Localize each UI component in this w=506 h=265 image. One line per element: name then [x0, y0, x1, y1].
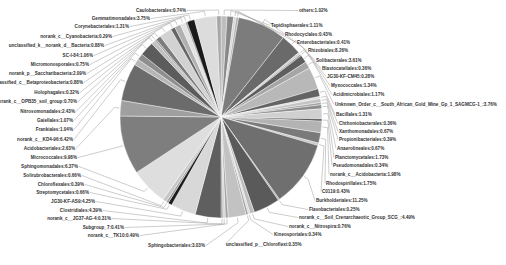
slice-label: Nitrosomonadales:2.43% [20, 109, 75, 114]
leader-line [140, 219, 227, 236]
slice-label: Corynebacteriales:1.31% [75, 24, 129, 29]
slice-label: Micrococcales:9.98% [31, 155, 77, 160]
leader-line [279, 201, 308, 210]
leader-line [76, 108, 119, 149]
slice-label: Frankiales:1.04% [36, 127, 73, 132]
slice-label: unclassified_k__norank_d__Bacteria:0.88% [9, 43, 104, 48]
slice-label: Gaiellales:1.07% [37, 118, 73, 123]
slice-label: Micromonosporales:0.75% [31, 62, 89, 67]
slice-label: Myxococcales:1.34% [331, 83, 377, 88]
leader-line [323, 120, 332, 165]
slice-label: Rhizobiales:8.26% [308, 48, 348, 53]
leader-line [319, 145, 324, 192]
slice-label: norank_c__Cyanobacteria:0.29% [40, 34, 112, 39]
slice-label: C0119:0.43% [322, 189, 350, 194]
leader-line [112, 219, 222, 225]
slice-label: Enterobacteriales:0.41% [297, 40, 350, 45]
slice-label: unclassified_c__Betaproteobacteria:0.88% [0, 80, 83, 85]
slice-label: Kineosporiales:0.34% [274, 232, 322, 237]
leader-line [249, 215, 273, 235]
slice-label: Chloroflexales:0.39% [38, 182, 84, 187]
slice-label: Flavobacteriales:0.25% [309, 207, 360, 212]
leader-line [304, 176, 315, 200]
slice-label: Chthoniobacterales:0.36% [339, 121, 396, 126]
slice-label: norank_c__KD4-96:6.42% [17, 137, 73, 142]
slice-label: Tepidisphaerales:1.11% [271, 23, 323, 28]
slice-label: norank_c__TK10:0.49% [88, 233, 139, 238]
slice-label: Subgroup_7:0.41% [83, 225, 124, 230]
slice-label: Solibacterales:3.61% [316, 58, 362, 63]
leader-line [225, 216, 249, 245]
slice-label: JG30-KF-AS9:4.25% [51, 199, 95, 204]
slice-label: norank_c__OPB35_soil_group:0.70% [0, 99, 77, 104]
slice-label: Acidimicrobiales:1.17% [333, 92, 384, 97]
slice-label: Unknown_Order_c__South_African_Gold_Mine… [335, 102, 497, 107]
slice-label: Bacillales:1.31% [336, 112, 372, 117]
slice-label: norank_c__Soil_Crenarchaeotic_Group_SCG_… [299, 215, 415, 220]
slice-label: Propionibacteriales:0.39% [339, 137, 396, 142]
leader-line [322, 103, 338, 140]
slice-label: JG30-KF-CM45:0.28% [327, 74, 374, 79]
slice-label: Pseudomonadales:0.34% [333, 163, 388, 168]
slice-label: SC-I-84:1.06% [63, 53, 93, 58]
slice-label: Holophagales:0.32% [34, 90, 79, 95]
slice-label: Xanthomonadales:0.67% [339, 129, 393, 134]
slice-label: Rhodospirillales:1.75% [326, 181, 376, 186]
leader-line [74, 80, 125, 140]
slice-label: norank_c__JG37-AG-4:0.31% [47, 216, 111, 221]
slice-label: Burkholderiales:11.25% [316, 198, 368, 203]
slice-label: Anaerolineales:0.67% [337, 146, 384, 151]
leader-line [321, 96, 338, 123]
slice-label: others:1.02% [299, 8, 328, 13]
slice-label: norank_p__Saccharibacteria:2.09% [9, 71, 86, 76]
slice-label: Blastocatellales:0.36% [322, 66, 371, 71]
slice-label: Acidobacteriales:2.63% [24, 146, 75, 151]
slice-label: Rhodocyclales:0.43% [285, 32, 332, 37]
slice-label: unclassified_p__Chloroflexi:0.35% [226, 242, 302, 247]
slice-label: Solirubrobacterales:0.66% [23, 173, 81, 178]
slice-label: Streptomycetales:0.66% [36, 190, 89, 195]
slice-label: Gemmatimonadales:3.75% [92, 16, 150, 21]
slice-label: Clostridiales:4.39% [60, 208, 102, 213]
leader-line [187, 10, 219, 15]
slice-label: norank_c__Nitrospira:0.76% [289, 224, 351, 229]
slice-label: Sphingobacteriales:3.03% [148, 243, 205, 248]
pie-chart: others:1.02%Tepidisphaerales:1.11%Rhodoc… [0, 0, 506, 265]
leader-line [78, 146, 123, 158]
slice-label: norank_c__Acidobacteria:1.98% [330, 172, 400, 177]
pie-slices [120, 16, 322, 218]
slice-label: Planctomycetales:1.73% [335, 155, 388, 160]
slice-label: Sphingomonadales:6.37% [21, 164, 78, 169]
leader-line [267, 208, 298, 218]
slice-label: Caulobacterales:0.74% [136, 8, 186, 13]
